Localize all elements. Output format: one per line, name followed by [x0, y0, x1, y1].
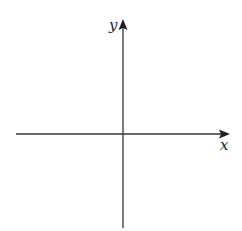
y-axis — [119, 19, 128, 228]
coordinate-axes: y x — [0, 0, 242, 231]
y-axis-label: y — [108, 16, 118, 34]
x-axis-label: x — [220, 136, 229, 154]
